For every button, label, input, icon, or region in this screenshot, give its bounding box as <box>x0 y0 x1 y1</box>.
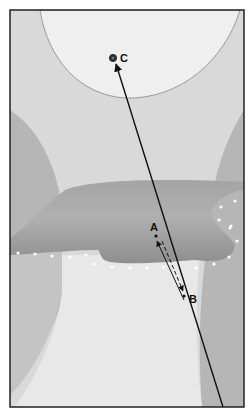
label-a: A <box>150 221 158 233</box>
point-b-marker <box>182 294 185 297</box>
label-b: B <box>189 293 197 305</box>
diagram-canvas: C A B <box>0 0 251 413</box>
point-c-center <box>112 57 115 60</box>
label-c: C <box>120 52 128 64</box>
point-a-marker <box>154 234 157 237</box>
